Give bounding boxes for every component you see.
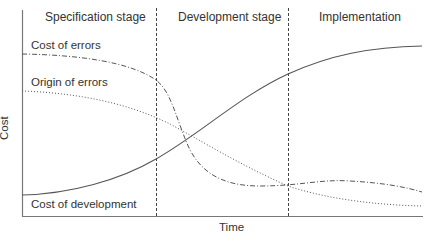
series-label-cost-of-errors: Cost of errors [31, 40, 101, 52]
chart-container: Specification stage Development stage Im… [0, 0, 431, 240]
series-label-origin-of-errors: Origin of errors [31, 77, 108, 89]
series-label-cost-of-development: Cost of development [31, 199, 136, 211]
stage-label-specification: Specification stage [45, 11, 146, 23]
y-axis-label: Cost [0, 116, 10, 140]
cost-of-development-line [22, 46, 422, 195]
origin-of-errors-line [22, 91, 422, 206]
x-axis-label: Time [219, 222, 244, 234]
cost-of-errors-line [22, 54, 422, 192]
stage-label-development: Development stage [178, 11, 281, 23]
stage-label-implementation: Implementation [319, 11, 401, 23]
